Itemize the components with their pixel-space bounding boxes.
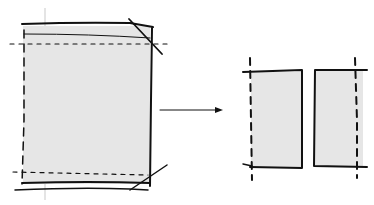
arrow-head-icon — [215, 107, 223, 113]
bottom-fold-line — [15, 188, 148, 190]
arrow — [160, 107, 223, 113]
bottom-hem-edge — [22, 182, 150, 183]
result-left-bottom-tick — [243, 164, 252, 166]
result-left-fill — [251, 72, 301, 167]
source-panel — [10, 8, 167, 200]
source-panel-fill — [23, 26, 150, 184]
diagram-canvas — [0, 0, 374, 205]
result-panel-left — [243, 58, 302, 180]
result-panel-right — [314, 58, 367, 178]
right-edge — [150, 28, 152, 186]
